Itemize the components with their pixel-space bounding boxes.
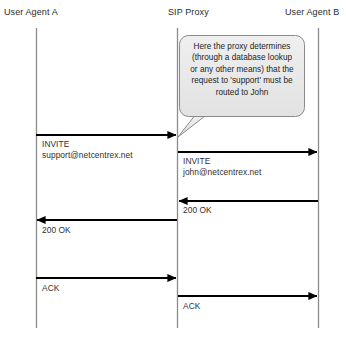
callout-line-2: (through a database lookup <box>184 52 300 63</box>
message-label-200-ok-2: 200 OK <box>42 225 71 236</box>
actor-label-user-agent-a: User Agent A <box>4 7 58 17</box>
callout-line-5: routed to John <box>184 87 300 98</box>
message-label-ack-1-name: ACK <box>42 283 59 294</box>
callout-line-3: or any other means) that the <box>184 64 300 75</box>
message-label-invite-2: INVITE john@netcentrex.net <box>183 156 261 178</box>
message-label-ack-2: ACK <box>183 301 200 312</box>
callout-line-4: request to 'support' must be <box>184 75 300 86</box>
message-label-invite-1-detail: support@netcentrex.net <box>42 150 133 161</box>
actor-label-user-agent-b: User Agent B <box>285 7 339 17</box>
sip-call-flow-diagram: User Agent A SIP Proxy User Agent B Here… <box>0 0 346 339</box>
message-label-200-ok-1-name: 200 OK <box>183 205 212 216</box>
message-label-invite-2-detail: john@netcentrex.net <box>183 167 261 178</box>
message-label-200-ok-1: 200 OK <box>183 205 212 216</box>
message-label-invite-2-name: INVITE <box>183 156 261 167</box>
message-label-invite-1: INVITE support@netcentrex.net <box>42 139 133 161</box>
callout-line-1: Here the proxy determines <box>184 41 300 52</box>
message-label-ack-1: ACK <box>42 283 59 294</box>
message-label-ack-2-name: ACK <box>183 301 200 312</box>
message-label-invite-1-name: INVITE <box>42 139 133 150</box>
actor-label-sip-proxy: SIP Proxy <box>168 7 209 17</box>
callout-tail <box>178 114 205 137</box>
callout-text: Here the proxy determines (through a dat… <box>184 41 300 98</box>
message-label-200-ok-2-name: 200 OK <box>42 225 71 236</box>
